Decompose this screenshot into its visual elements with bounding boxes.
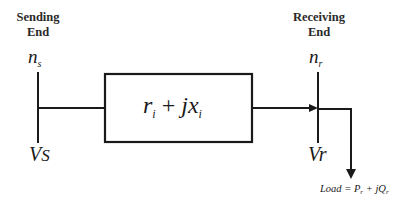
sending-node-label: ns bbox=[28, 46, 41, 69]
load-arrow-icon bbox=[346, 169, 356, 179]
receiving-end-title-line2: End bbox=[284, 25, 354, 40]
reactance-subscript: i bbox=[199, 107, 202, 121]
load-plus-jq: + jQ bbox=[363, 183, 386, 194]
load-prefix: Load = P bbox=[320, 183, 360, 194]
receiving-node-label: nr bbox=[309, 46, 322, 69]
reactance-symbol: jx bbox=[181, 92, 198, 118]
receiving-node-subscript: r bbox=[319, 58, 323, 69]
sending-voltage-subscript: S bbox=[41, 146, 50, 165]
power-flow-arrow-icon bbox=[309, 104, 318, 112]
sending-end-title-line2: End bbox=[8, 25, 68, 40]
sending-node-symbol: n bbox=[28, 46, 38, 67]
sending-end-title-line1: Sending bbox=[8, 10, 68, 25]
sending-voltage-symbol: V bbox=[29, 143, 41, 165]
receiving-node-symbol: n bbox=[309, 46, 319, 67]
receiving-end-title-line1: Receiving bbox=[284, 10, 354, 25]
impedance-label: ri + jxi bbox=[143, 92, 202, 122]
sending-node-subscript: s bbox=[38, 58, 42, 69]
resistance-symbol: r bbox=[143, 92, 152, 118]
receiving-voltage-label: Vr bbox=[308, 143, 327, 166]
sending-end-title: Sending End bbox=[8, 10, 68, 40]
receiving-voltage-subscript: r bbox=[319, 143, 327, 165]
plus-sign: + bbox=[156, 92, 182, 118]
sending-voltage-label: VS bbox=[29, 143, 50, 166]
load-label: Load = Pr + jQr bbox=[320, 183, 389, 196]
receiving-end-title: Receiving End bbox=[284, 10, 354, 40]
load-q-subscript: r bbox=[386, 188, 389, 196]
receiving-voltage-symbol: V bbox=[308, 143, 319, 165]
